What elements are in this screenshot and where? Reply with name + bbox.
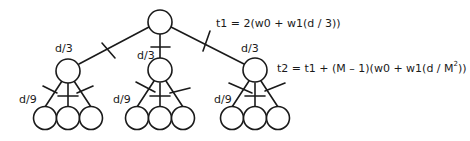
node-level1-left [56,59,80,83]
leaf-node [267,107,290,130]
edge-label-d9-left: d/9 [19,94,37,105]
edge-root-right [171,27,244,64]
leaf-node [221,107,244,130]
formula-t2-close: )) [458,62,467,75]
edge-label-d9-middle: d/9 [113,94,131,105]
formula-t1: t1 = 2(w0 + w1(d / 3)) [216,18,341,29]
edge-label-d3-middle: d/3 [137,50,155,61]
leaf-node [126,107,149,130]
node-level1-right [243,58,267,82]
formula-t2-exponent: 2 [454,60,458,68]
edge-label-d3-right: d/3 [241,43,259,54]
leaf-node [57,107,80,130]
formula-t2-main: t2 = t1 + (M – 1)(w0 + w1(d / M [277,62,454,75]
leaf-node [172,107,195,130]
formula-t2: t2 = t1 + (M – 1)(w0 + w1(d / M2)) [277,63,467,74]
leaf-node [149,107,172,130]
leaf-node [244,107,267,130]
edge-label-d3-left: d/3 [55,43,73,54]
leaf-node [80,107,103,130]
edge-label-d9-right: d/9 [214,94,232,105]
leaf-node [34,107,57,130]
cut-mark [203,31,210,51]
root-node [148,10,172,34]
tree-diagram: d/3 d/3 d/3 d/9 d/9 d/9 t1 = 2(w0 + w1(d… [0,0,470,141]
